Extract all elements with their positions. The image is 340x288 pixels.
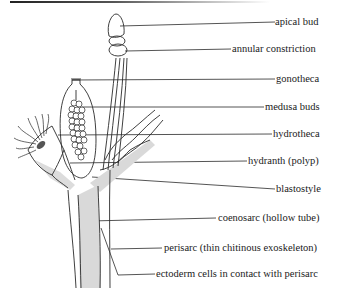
medusa-buds-cluster xyxy=(68,100,87,160)
leader-hydrotheca xyxy=(58,134,272,135)
label-apical-bud: apical bud xyxy=(275,16,318,28)
leader-coenosarc xyxy=(90,218,216,221)
label-medusa-buds: medusa buds xyxy=(265,101,320,113)
leader-perisarc xyxy=(111,248,162,249)
leader-gonotheca xyxy=(72,79,275,80)
label-blastostyle: blastostyle xyxy=(276,183,321,195)
leader-annular-constriction xyxy=(125,49,231,51)
label-hydrotheca: hydrotheca xyxy=(273,128,320,140)
label-perisarc: perisarc (thin chitinous exoskeleton) xyxy=(164,242,317,254)
leader-blastostyle xyxy=(92,177,275,189)
leader-hydranth xyxy=(70,161,247,163)
tentacles xyxy=(14,114,49,158)
label-hydranth: hydranth (polyp) xyxy=(248,155,319,167)
label-coenosarc: coenosarc (hollow tube) xyxy=(218,212,319,224)
leader-apical-bud xyxy=(120,22,275,26)
label-ectoderm: ectoderm cells in contact with perisarc xyxy=(156,268,318,280)
leader-ectoderm xyxy=(101,228,155,275)
label-annular-constriction: annular constriction xyxy=(232,43,316,55)
label-gonotheca: gonotheca xyxy=(276,73,319,85)
